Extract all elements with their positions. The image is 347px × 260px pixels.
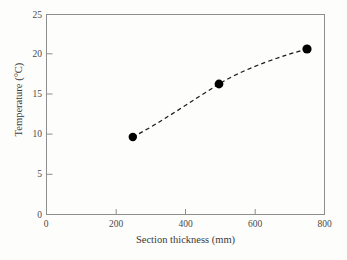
y-tick-label-0: 0 [37,210,42,220]
x-tick-label-0: 0 [44,219,49,229]
y-tick-label-20: 20 [33,49,43,59]
plot-area [46,14,325,215]
y-tick-label-5: 5 [37,169,42,179]
x-axis-title: Section thickness (mm) [46,234,325,245]
x-tick-label-600: 600 [248,219,262,229]
chart-figure: 0 200 400 600 800 0 5 10 15 20 25 Sectio… [0,0,347,260]
x-tick-label-800: 800 [317,219,331,229]
y-tick-label-10: 10 [33,129,43,139]
y-tick-label-25: 25 [33,10,43,20]
y-tick-label-15: 15 [33,89,43,99]
x-tick-label-400: 400 [178,219,192,229]
y-axis-title: Temperature (°C) [13,30,24,170]
x-tick-label-200: 200 [109,219,123,229]
